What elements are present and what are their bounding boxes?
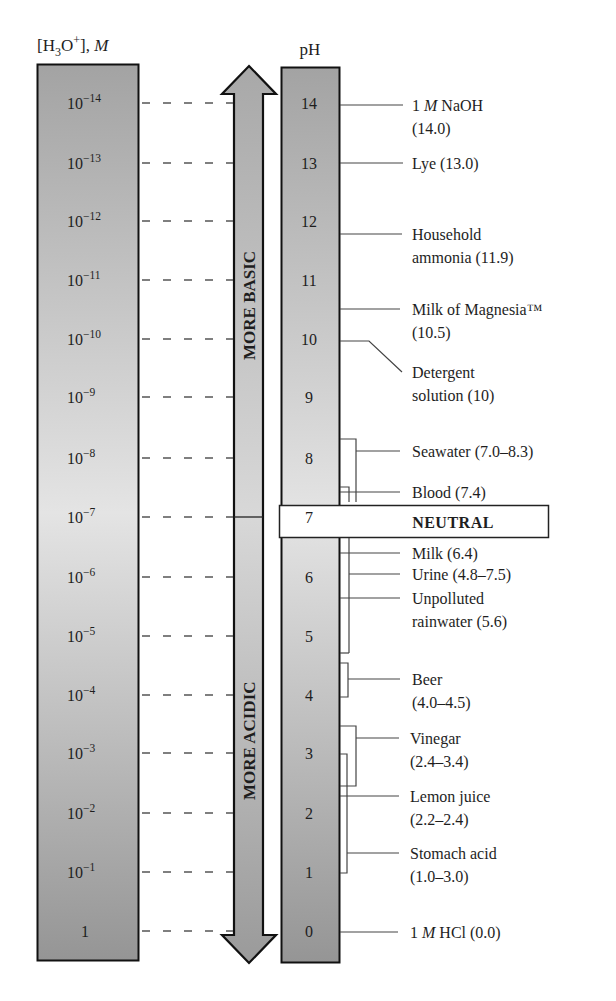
label-lemon-juice-value: (2.2–2.4): [410, 811, 469, 829]
label-lye: Lye (13.0): [412, 155, 479, 173]
concentration-ticks: 10−1410−1310−1210−1110−1010−910−810−710−…: [67, 92, 233, 940]
label-stomach-acid-value: (1.0–3.0): [410, 868, 469, 886]
ph-tick-label: 10: [301, 331, 317, 348]
label-seawater: Seawater (7.0–8.3): [412, 443, 533, 461]
ph-tick-label: 6: [305, 569, 313, 586]
ph-tick-label: 4: [305, 687, 313, 704]
label-milk-of-magnesia: Milk of Magnesia™: [412, 301, 543, 319]
label-rainwater-value: rainwater (5.6): [412, 613, 507, 631]
ph-tick-label: 3: [305, 745, 313, 762]
label-hcl: 1 M HCl (0.0): [410, 924, 501, 942]
ph-tick-label: 0: [305, 923, 313, 940]
ph-scale-diagram: [H3O+], M pH MORE BASIC MORE ACIDIC 10−1…: [0, 0, 616, 1001]
label-ammonia-value: ammonia (11.9): [412, 249, 514, 267]
ph-tick-label: 2: [305, 805, 313, 822]
ph-tick-label: 9: [305, 389, 313, 406]
label-stomach-acid: Stomach acid: [410, 845, 497, 862]
concentration-column-title: [H3O+], M: [37, 33, 109, 59]
ph-tick-label: 5: [305, 628, 313, 645]
ph-column-title: pH: [300, 40, 321, 59]
label-naoh-value: (14.0): [412, 120, 451, 138]
label-vinegar-value: (2.4–3.4): [410, 753, 469, 771]
ph-tick-label: 11: [301, 272, 316, 289]
label-beer-value: (4.0–4.5): [412, 694, 471, 712]
ph-tick-label: 1: [305, 864, 313, 881]
label-rainwater: Unpolluted: [412, 590, 484, 608]
ph-tick-label: 8: [305, 450, 313, 467]
label-naoh: 1 M NaOH: [412, 97, 484, 114]
label-lemon-juice: Lemon juice: [410, 788, 490, 806]
label-blood: Blood (7.4): [412, 484, 486, 502]
concentration-tick-label: 1: [81, 923, 89, 940]
ph-tick-label: 13: [301, 155, 317, 172]
more-acidic-label: MORE ACIDIC: [240, 681, 259, 800]
ph-tick-label: 7: [305, 509, 313, 526]
label-vinegar: Vinegar: [410, 730, 461, 748]
more-basic-label: MORE BASIC: [240, 251, 259, 360]
label-milk: Milk (6.4): [412, 545, 478, 563]
label-beer: Beer: [412, 671, 443, 688]
acidity-arrow-icon: [222, 66, 276, 963]
label-urine: Urine (4.8–7.5): [412, 566, 511, 584]
label-detergent-value: solution (10): [412, 387, 494, 405]
label-ammonia: Household: [412, 226, 481, 243]
label-milk-of-magnesia-value: (10.5): [412, 324, 451, 342]
neutral-label: NEUTRAL: [412, 514, 494, 531]
ph-tick-label: 12: [301, 213, 317, 230]
label-detergent: Detergent: [412, 364, 475, 382]
ph-tick-label: 14: [301, 95, 317, 112]
